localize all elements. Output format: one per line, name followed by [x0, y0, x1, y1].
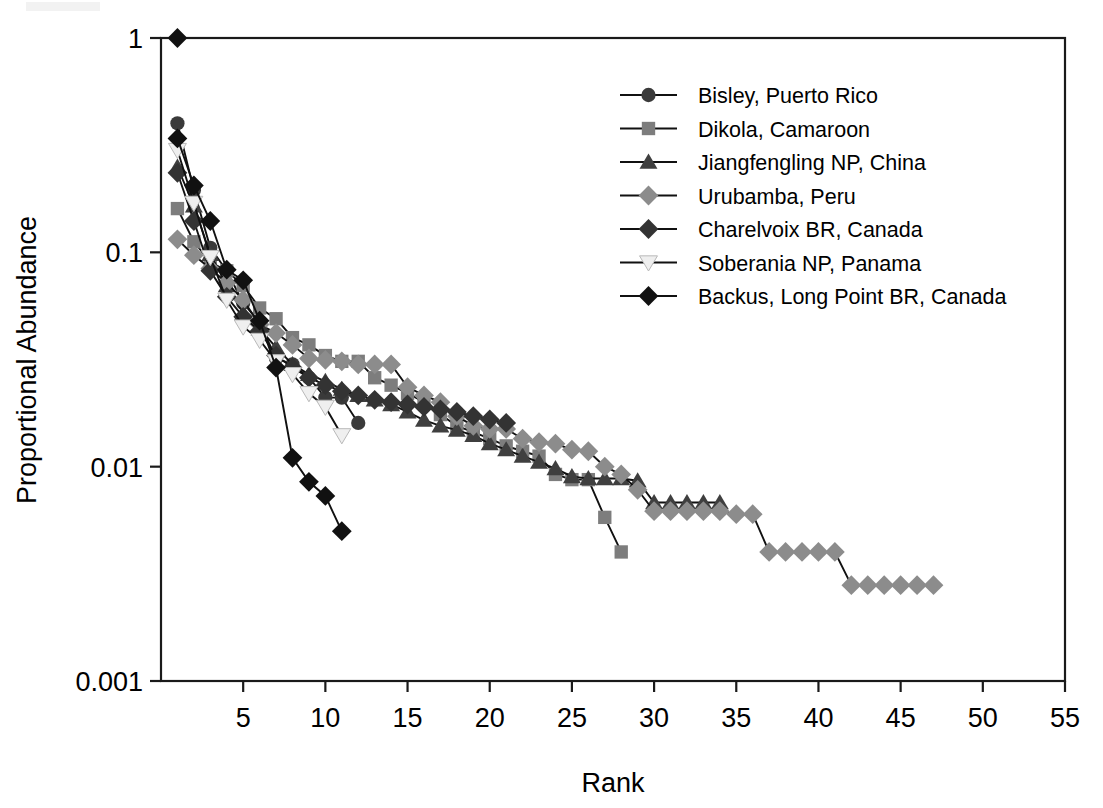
x-tick-label: 40: [803, 703, 833, 733]
series-marker: [615, 545, 628, 558]
legend-label: Bisley, Puerto Rico: [698, 84, 878, 108]
y-tick-label: 0.01: [90, 453, 143, 483]
series-marker: [825, 542, 845, 562]
series-marker: [218, 293, 236, 308]
rank-abundance-chart: 510152025303540455055 10.10.010.001 Bisl…: [0, 0, 1103, 808]
x-tick-label: 35: [721, 703, 751, 733]
series-marker: [924, 575, 944, 595]
x-axis-ticks: 510152025303540455055: [236, 681, 1080, 733]
x-tick-label: 15: [393, 703, 423, 733]
x-tick-label: 55: [1050, 703, 1080, 733]
x-tick-label: 50: [968, 703, 998, 733]
series-marker: [170, 116, 184, 130]
legend-marker-square: [642, 122, 655, 135]
series-marker: [398, 377, 418, 397]
x-tick-label: 25: [557, 703, 587, 733]
data-series-group: [168, 28, 944, 595]
y-axis-title: Proportional Abundance: [12, 216, 42, 504]
series-marker: [316, 400, 334, 415]
legend-label: Soberania NP, Panama: [698, 252, 921, 276]
series-0: [170, 116, 365, 430]
series-1: [171, 202, 628, 559]
legend: Bisley, Puerto RicoDikola, CamaroonJiang…: [620, 84, 1006, 309]
legend-marker-circle: [641, 88, 655, 102]
x-tick-label: 10: [310, 703, 340, 733]
series-marker: [529, 432, 549, 452]
legend-label: Backus, Long Point BR, Canada: [698, 285, 1006, 309]
series-line: [177, 209, 621, 552]
legend-marker-diamond: [639, 286, 659, 306]
legend-item-3[interactable]: Urubamba, Peru: [620, 185, 856, 209]
series-marker: [414, 397, 434, 417]
anchor-marker: [168, 28, 188, 48]
legend-label: Jiangfengling NP, China: [698, 151, 926, 175]
legend-item-4[interactable]: Charelvoix BR, Canada: [620, 218, 923, 242]
y-tick-label: 0.001: [75, 667, 143, 697]
figure-container: 510152025303540455055 10.10.010.001 Bisl…: [0, 0, 1103, 808]
scan-artifact: [26, 2, 100, 11]
series-marker: [562, 440, 582, 460]
series-anchor-point: [168, 28, 188, 48]
legend-marker-diamond: [639, 186, 659, 206]
series-marker: [283, 335, 303, 355]
series-marker: [384, 379, 397, 392]
x-tick-label: 5: [236, 703, 251, 733]
series-marker: [200, 211, 220, 231]
series-marker: [513, 429, 533, 449]
series-marker: [171, 202, 184, 215]
y-tick-label: 0.1: [105, 238, 143, 268]
legend-item-2[interactable]: Jiangfengling NP, China: [620, 151, 926, 175]
series-line: [177, 150, 341, 435]
legend-item-1[interactable]: Dikola, Camaroon: [620, 118, 870, 142]
series-marker: [332, 521, 352, 541]
legend-label: Dikola, Camaroon: [698, 118, 870, 142]
x-tick-label: 30: [639, 703, 669, 733]
series-marker: [299, 349, 319, 369]
x-axis-title: Rank: [581, 768, 645, 798]
series-marker: [351, 416, 365, 430]
series-marker: [315, 350, 335, 370]
series-marker: [381, 355, 401, 375]
x-tick-label: 20: [475, 703, 505, 733]
series-marker: [332, 351, 352, 371]
y-tick-label: 1: [128, 24, 143, 54]
y-axis-ticks: 10.10.010.001: [75, 24, 161, 697]
legend-item-6[interactable]: Backus, Long Point BR, Canada: [620, 285, 1006, 309]
series-marker: [283, 448, 303, 468]
series-marker: [743, 504, 763, 524]
legend-item-5[interactable]: Soberania NP, Panama: [620, 252, 921, 276]
legend-marker-diamond: [639, 219, 659, 239]
series-marker: [348, 386, 368, 406]
legend-label: Urubamba, Peru: [698, 185, 856, 209]
series-marker: [546, 434, 566, 454]
series-marker: [365, 390, 385, 410]
series-marker: [233, 270, 253, 290]
legend-label: Charelvoix BR, Canada: [698, 218, 923, 242]
x-tick-label: 45: [886, 703, 916, 733]
series-marker: [598, 511, 611, 524]
series-marker: [710, 501, 730, 521]
legend-item-0[interactable]: Bisley, Puerto Rico: [620, 84, 878, 108]
series-marker: [333, 429, 351, 444]
series-4: [168, 163, 517, 433]
